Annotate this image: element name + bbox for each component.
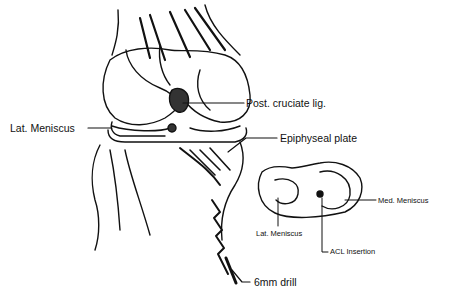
drill — [212, 200, 228, 274]
label-med-meniscus: Med. Meniscus — [378, 196, 428, 205]
tibia-outline — [92, 145, 100, 250]
knee-diagram — [0, 0, 451, 294]
tibial-plateau-inset — [258, 162, 361, 217]
label-lat-meniscus: Lat. Meniscus — [10, 122, 75, 134]
pcl-notch — [170, 88, 189, 112]
label-drill: 6mm drill — [254, 276, 297, 288]
label-acl-insertion: ACL Insertion — [330, 247, 375, 256]
label-post-cruciate: Post. cruciate lig. — [246, 97, 326, 109]
label-lat-meniscus-inset: Lat. Meniscus — [256, 229, 302, 238]
label-epiphyseal-plate: Epiphyseal plate — [280, 132, 357, 144]
femoral-condyles — [103, 48, 250, 125]
